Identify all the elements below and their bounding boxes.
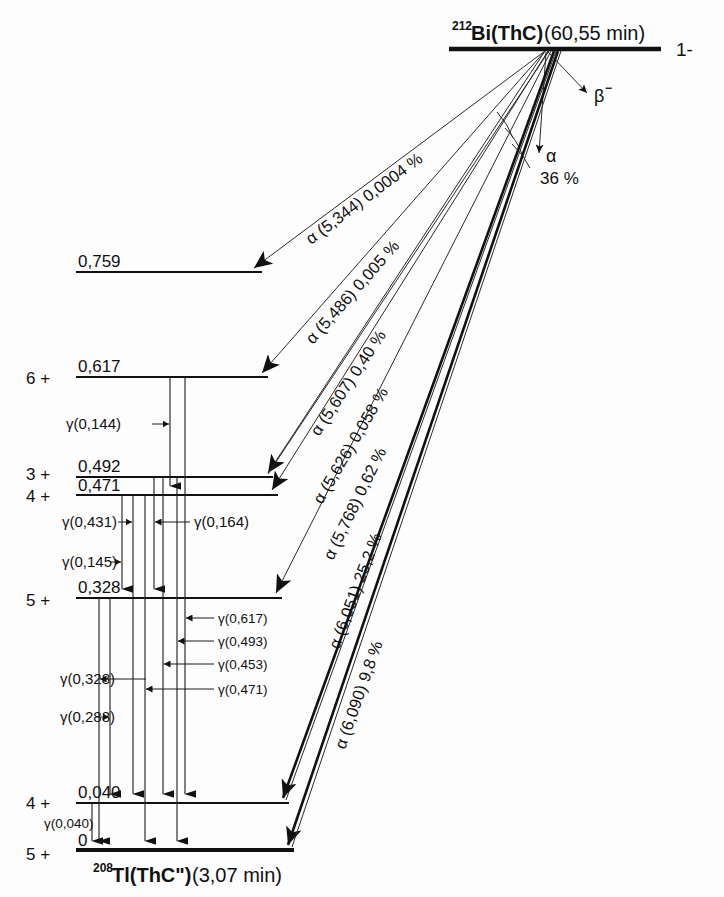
parent-halflife-label: (60,55 min) — [544, 22, 645, 44]
spin-label-0471: 4 + — [26, 487, 50, 506]
decay-scheme-figure: 212 Bi(ThC) (60,55 min) 1- β − α 36 % — [0, 0, 724, 897]
alpha-line-6090-pair — [292, 51, 561, 847]
gamma-label-0471: γ(0,471) — [218, 682, 268, 697]
gamma-label-0145: γ(0,145) — [62, 553, 117, 570]
beta-symbol-label: β — [594, 86, 604, 106]
spin-label-ground: 5 + — [26, 845, 50, 864]
spin-label-0328: 5 + — [26, 591, 50, 610]
gamma-label-0453: γ(0,453) — [218, 657, 268, 672]
energy-label-0328: 0,328 — [78, 578, 121, 597]
gamma-label-0431: γ(0,431) — [62, 513, 117, 530]
alpha-line-6090 — [288, 51, 558, 845]
parent-mass-number: 212 — [452, 19, 472, 33]
alpha-label-5626: α (5,626) 0,058 % — [309, 384, 391, 507]
energy-label-0471: 0,471 — [78, 476, 121, 495]
alpha-line-5607 — [268, 51, 545, 473]
gamma-label-0040: γ(0,040) — [44, 816, 94, 831]
energy-label-0617: 0,617 — [78, 357, 121, 376]
parent-nuclide-label: Bi(ThC) — [471, 22, 543, 44]
alpha-label-5344: α (5,344) 0,0004 % — [302, 149, 426, 248]
beta-branch-group: β − — [547, 51, 612, 106]
alpha-labels: α (5,344) 0,0004 % α (5,486) 0,005 % α (… — [302, 149, 426, 751]
gamma-label-0617: γ(0,617) — [218, 611, 268, 626]
daughter-mass-number: 208 — [93, 861, 113, 875]
spin-label-0492: 3 + — [26, 465, 50, 484]
daughter-nuclide-group: 208 Tl(ThC") (3,07 min) — [93, 861, 282, 886]
spin-label-0040: 4 + — [26, 794, 50, 813]
gamma-label-0493: γ(0,493) — [218, 634, 268, 649]
alpha-total-symbol: α — [546, 146, 556, 166]
daughter-halflife-label: (3,07 min) — [192, 864, 282, 886]
beta-minus-superscript: − — [605, 81, 612, 95]
gamma-label-0144: γ(0,144) — [66, 415, 121, 432]
energy-label-0492: 0,492 — [78, 457, 121, 476]
parent-spin-parity: 1- — [676, 39, 693, 60]
spin-label-0617: 6 + — [26, 369, 50, 388]
decay-scheme-canvas: 212 Bi(ThC) (60,55 min) 1- β − α 36 % — [0, 0, 724, 897]
alpha-total-percent: 36 % — [540, 169, 579, 188]
energy-label-ground: 0 — [78, 831, 87, 850]
alpha-label-5607: α (5,607) 0,40 % — [306, 326, 389, 438]
energy-label-0759: 0,759 — [78, 252, 121, 271]
gamma-label-0164: γ(0,164) — [194, 513, 249, 530]
gamma-transition-lines — [92, 377, 185, 841]
parent-level-group: 212 Bi(ThC) (60,55 min) 1- — [449, 19, 693, 60]
daughter-nuclide-label: Tl(ThC") — [112, 864, 191, 886]
alpha-line-5607-pair — [268, 51, 549, 474]
